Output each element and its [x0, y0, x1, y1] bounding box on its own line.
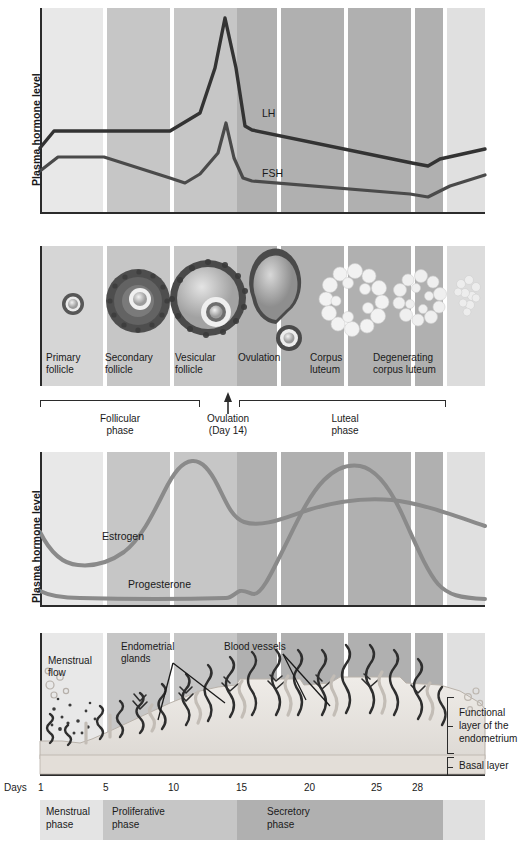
stage-label-secondary-follicle: Secondary follicle [105, 352, 153, 376]
callout-label-menstrual-flow: Menstrual flow [48, 655, 92, 679]
day-tick-15: 15 [236, 782, 247, 793]
day-tick-5: 5 [103, 782, 109, 793]
label-line1: Proliferative [112, 806, 165, 817]
endometrium-illustration [40, 633, 485, 776]
label-line2: phase [46, 819, 73, 830]
bracket-tick-bottom [447, 775, 454, 776]
label-line1: Menstrual [46, 806, 90, 817]
stage-label-line2: luteum [310, 364, 340, 375]
label-line1: Menstrual [48, 655, 92, 666]
stage-label-line1: Degenerating [373, 352, 433, 363]
bracket-tick-right [199, 400, 200, 407]
label-line2: phase [106, 425, 133, 436]
phase-label-proliferative: Proliferative phase [112, 806, 165, 831]
degenerating-corpus-luteum-icon-1 [393, 270, 447, 327]
bracket-line [40, 400, 200, 401]
phase-segment-trailing [443, 800, 485, 840]
stage-label-line2: follicle [175, 364, 203, 375]
label-line2: phase [331, 425, 358, 436]
bracket-line [239, 400, 446, 401]
stage-label-line2: follicle [46, 364, 74, 375]
uterine-phase-bar: Menstrual phase Proliferative phase Secr… [40, 800, 485, 840]
panel-gonadotropin-levels: LH FSH [40, 8, 485, 214]
lh-series-label: LH [262, 107, 275, 119]
bracket-tick-left [239, 400, 240, 407]
label-line1: Blood vessels [224, 641, 286, 652]
label-line2: phase [267, 819, 294, 830]
days-axis-label: Days [4, 782, 27, 793]
stage-label-vesicular-follicle: Vesicular follicle [175, 352, 216, 376]
label-line2: (Day 14) [209, 425, 247, 436]
panel-uterine-endometrium: Menstrual flow [40, 633, 485, 776]
label-line2: layer of the [459, 720, 508, 731]
bracket-tick-left [40, 400, 41, 407]
label-line1: Endometrial [121, 641, 174, 652]
stage-label-line2: follicle [105, 364, 133, 375]
panel-ovarian-cycle: Primary follicle Secondary follicle Vesi… [40, 246, 485, 386]
basal-layer-shape [40, 755, 485, 774]
secondary-follicle-icon [106, 269, 170, 333]
bracket-tick-right [445, 400, 446, 407]
estrogen-series-label: Estrogen [102, 530, 144, 542]
stage-label-line1: Vesicular [175, 352, 216, 363]
bracket-label-functional-layer: Functional layer of the endometrium [459, 706, 517, 745]
day-tick-20: 20 [304, 782, 315, 793]
day-tick-10: 10 [168, 782, 179, 793]
label-line2: flow [48, 667, 66, 678]
callout-label-endometrial-glands: Endometrial glands [121, 641, 174, 665]
menstrual-flow-debris [51, 698, 97, 735]
bracket-label-luteal-phase: Luteal phase [305, 413, 385, 437]
lh-curve [40, 18, 485, 166]
fsh-series-label: FSH [262, 167, 283, 179]
panel-ovarian-hormone-levels: Estrogen Progesterone [40, 452, 485, 607]
y-axis-label-gonadotropins: Plasma hormone level [30, 73, 42, 186]
label-line1: Follicular [100, 413, 140, 424]
y-axis-label-ovarian-hormones: Plasma hormone level [30, 490, 42, 603]
bracket-label-basal-layer: Basal layer [459, 760, 508, 772]
degenerating-corpus-luteum-icon-2 [454, 276, 481, 317]
stage-label-corpus-luteum: Corpus luteum [310, 352, 342, 376]
label-line1: Secretory [267, 806, 310, 817]
bracket-tick-bottom [447, 753, 454, 754]
callout-label-blood-vessels: Blood vessels [224, 641, 286, 653]
ovulation-icon [249, 248, 302, 351]
stage-label-line1: Secondary [105, 352, 153, 363]
bracket-tick-top [447, 757, 454, 758]
stage-label-line1: Ovulation [238, 352, 280, 363]
stage-label-primary-follicle: Primary follicle [46, 352, 80, 376]
progesterone-series-label: Progesterone [128, 578, 191, 590]
label-line2: phase [112, 819, 139, 830]
bracket-label-ovulation-day14: Ovulation (Day 14) [188, 413, 268, 437]
day-tick-28: 28 [412, 782, 423, 793]
label-line1: Luteal [331, 413, 358, 424]
stage-label-line1: Corpus [310, 352, 342, 363]
vesicular-follicle-icon [169, 259, 248, 338]
bracket-tick-mid [447, 726, 453, 727]
day-tick-1: 1 [38, 782, 44, 793]
label-line2: glands [121, 653, 150, 664]
stage-label-line2: corpus luteum [373, 364, 436, 375]
bracket-tick-mid [447, 767, 453, 768]
label-line1: Ovulation [207, 413, 249, 424]
bracket-label-follicular-phase: Follicular phase [80, 413, 160, 437]
day-tick-25: 25 [371, 782, 382, 793]
stage-label-degenerating-corpus-luteum: Degenerating corpus luteum [373, 352, 436, 376]
bracket-tick-top [447, 697, 454, 698]
corpus-luteum-icon [319, 264, 389, 337]
fsh-curve [40, 123, 485, 197]
label-line3: endometrium [459, 733, 517, 744]
stage-label-line1: Primary [46, 352, 80, 363]
stage-label-ovulation: Ovulation [238, 352, 280, 364]
label-line1: Functional [459, 707, 505, 718]
phase-label-secretory: Secretory phase [267, 806, 310, 831]
primary-follicle-icon [62, 293, 84, 315]
phase-label-menstrual: Menstrual phase [46, 806, 90, 831]
